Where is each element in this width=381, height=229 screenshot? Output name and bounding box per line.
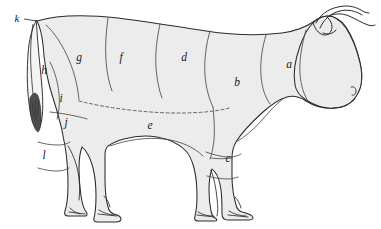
cut-label-h: h (41, 64, 47, 76)
cut-label-e: e (147, 119, 152, 131)
beef-cuts-figure: k h g f d a b i j e l c (0, 0, 381, 229)
cut-label-g: g (76, 51, 82, 64)
leader-lines-group (24, 19, 37, 21)
cow-diagram-svg: k h g f d a b i j e l c (0, 0, 381, 229)
leader-line-k (24, 19, 37, 21)
tail-group (27, 21, 43, 132)
cut-label-d: d (181, 51, 187, 63)
cut-line-l-lower (38, 168, 69, 171)
cut-label-k: k (15, 12, 21, 24)
cut-label-b: b (234, 76, 240, 88)
cut-label-l: l (42, 149, 45, 161)
cut-label-i: i (59, 92, 62, 104)
cut-label-c: c (225, 152, 230, 164)
cut-label-a: a (286, 58, 292, 70)
